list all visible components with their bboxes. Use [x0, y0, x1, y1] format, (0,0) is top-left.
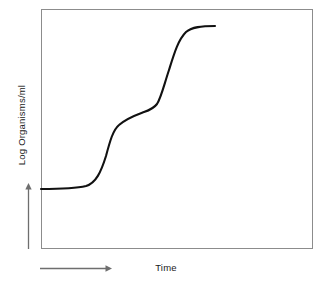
- y-axis-label: Log Organisms/ml: [17, 85, 27, 165]
- x-axis-label: Time: [155, 263, 177, 273]
- arrow-right-icon: [40, 265, 112, 271]
- growth-curve-figure: Log Organisms/ml Time: [0, 0, 329, 286]
- arrow-up-icon: [25, 183, 31, 249]
- chart-canvas: [0, 0, 329, 286]
